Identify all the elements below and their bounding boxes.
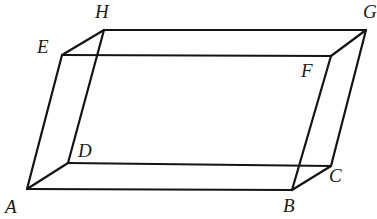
edge-AB: [27, 189, 292, 190]
vertex-label-B: B: [283, 196, 295, 215]
vertex-label-H: H: [95, 2, 109, 21]
edge-EF: [62, 55, 331, 56]
edge-CD: [68, 163, 331, 166]
vertex-label-F: F: [301, 61, 313, 80]
edge-group: [27, 30, 366, 190]
vertex-label-G: G: [363, 2, 377, 21]
vertex-label-E: E: [37, 37, 49, 56]
vertex-label-D: D: [78, 141, 92, 160]
vertex-label-C: C: [329, 166, 342, 185]
edge-CG: [331, 30, 366, 166]
vertex-label-A: A: [5, 197, 17, 216]
